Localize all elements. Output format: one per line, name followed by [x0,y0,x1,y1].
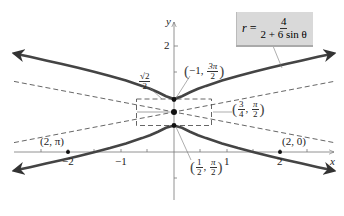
vertex-bottom-point [172,123,177,128]
point-2-pi [66,150,70,154]
annotation-sqrt2-over-2: √22 [138,72,151,92]
y-tick-label-2: 2 [164,40,170,51]
annotation-3-4-pi-over-2: (34, π2) [232,100,265,120]
x-tick-label-neg1: −1 [115,156,127,167]
x-axis-label: x [330,156,335,167]
eq-equals: = [250,21,257,36]
eq-denominator: 2 + 6 sin θ [261,29,307,41]
x-tick-label-2: 2 [277,156,283,167]
center-point [171,109,177,115]
eq-fraction: 4 2 + 6 sin θ [261,16,307,40]
vertex-top-point [172,97,177,102]
x-tick-label-1: 1 [224,156,230,167]
equation-label: r = 4 2 + 6 sin θ [236,12,313,45]
annotation-1-2-pi-over-2: (12, π2) [190,158,223,178]
x-tick-label-neg2: −2 [62,156,74,167]
point-2-0 [278,150,282,154]
annotation-neg1-3pi-over-2: (−1, 3π2) [184,62,224,82]
annotation-2-0: (2, 0) [282,136,306,147]
annotation-2-pi: (2, π) [40,136,64,147]
eq-r: r [242,21,247,36]
y-axis-label: y [166,16,171,27]
